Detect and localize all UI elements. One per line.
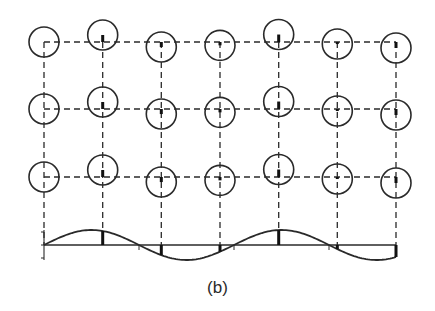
- displacement-marker: [219, 42, 222, 45]
- figure-caption: (b): [0, 278, 435, 298]
- displacement-marker: [277, 35, 280, 42]
- displacement-marker: [395, 177, 398, 183]
- displacement-wave: [41, 230, 398, 260]
- displacement-marker: [336, 42, 339, 44]
- displacement-marker: [395, 109, 398, 115]
- displacement-marker: [219, 109, 222, 112]
- displacement-bar: [336, 245, 339, 249]
- dashed-grid: [44, 42, 396, 245]
- displacement-marker: [336, 177, 339, 179]
- displacement-marker: [160, 177, 163, 182]
- displacement-marker: [101, 102, 104, 109]
- displacement-bar: [219, 245, 222, 252]
- displacement-marker: [101, 170, 104, 177]
- displacement-marker: [101, 35, 104, 42]
- displacement-bar: [277, 230, 280, 245]
- displacement-bar: [101, 231, 104, 245]
- displacement-marker: [160, 109, 163, 114]
- lattice-wave-diagram: [0, 0, 435, 311]
- displacement-bar: [395, 245, 398, 257]
- displacement-marker: [219, 177, 222, 180]
- displacement-marker: [277, 170, 280, 177]
- displacement-marker: [336, 109, 339, 111]
- displacement-marker: [160, 42, 163, 47]
- displacement-marker: [277, 102, 280, 109]
- displacement-bar: [160, 245, 163, 255]
- displacement-marker: [395, 42, 398, 48]
